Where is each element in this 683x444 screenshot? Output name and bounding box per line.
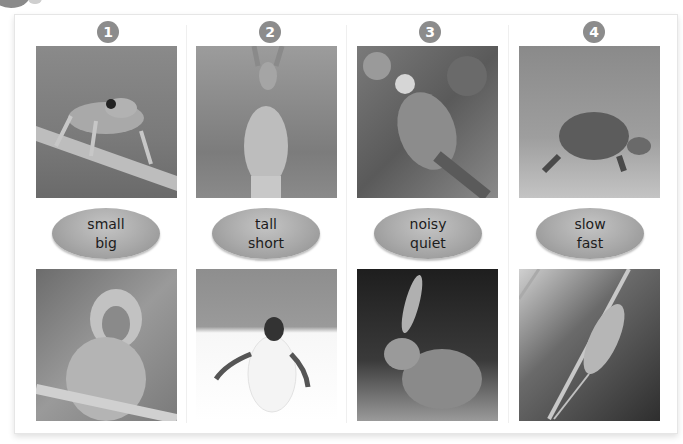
column-3: 3 noisy quiet: [346, 15, 508, 433]
tortoise-image: [519, 46, 660, 198]
monkey-image: [36, 269, 177, 421]
kangaroo-image: [196, 46, 337, 198]
corner-tab: [28, 0, 42, 4]
adjective-1: small: [87, 215, 124, 234]
number-badge: 2: [259, 21, 281, 43]
penguin-image: [196, 269, 337, 421]
adjective-oval: slow fast: [536, 208, 644, 259]
frog-image: [36, 46, 177, 198]
adjective-oval: noisy quiet: [374, 208, 482, 259]
adjective-oval: small big: [52, 208, 160, 259]
adjective-2: short: [248, 234, 284, 253]
column-2: 2 tall short: [186, 15, 346, 433]
exercise-panel: 1 small big 2: [14, 14, 678, 434]
adjective-1: noisy: [410, 215, 447, 234]
column-4: 4 slow fast: [508, 15, 677, 433]
column-1: 1 small big: [15, 15, 185, 433]
rabbit-image: [357, 269, 498, 421]
adjective-2: quiet: [410, 234, 446, 253]
adjective-oval: tall short: [212, 208, 320, 259]
mouse-image: [519, 269, 660, 421]
adjective-2: fast: [577, 234, 603, 253]
parrot-image: [357, 46, 498, 198]
number-badge: 1: [97, 21, 119, 43]
adjective-1: slow: [574, 215, 605, 234]
adjective-1: tall: [255, 215, 277, 234]
number-badge: 3: [419, 21, 441, 43]
number-badge: 4: [583, 21, 605, 43]
corner-badge: [0, 0, 30, 8]
adjective-2: big: [95, 234, 117, 253]
